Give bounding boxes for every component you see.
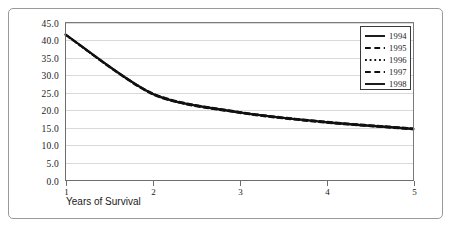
x-tick-label: 5 xyxy=(412,187,417,197)
x-tick-label: 4 xyxy=(325,187,330,197)
y-tick-label: 5.0 xyxy=(47,159,60,169)
x-tick-label: 1 xyxy=(64,187,69,197)
legend-label-1998: 1998 xyxy=(389,79,407,89)
y-tick-label: 30.0 xyxy=(42,71,59,81)
y-tick-label: 25.0 xyxy=(42,89,59,99)
x-axis-title: Years of Survival xyxy=(66,196,141,207)
x-tick-label: 2 xyxy=(151,187,156,197)
figure-container: 0.05.010.015.020.025.030.035.040.045.0 1… xyxy=(0,0,451,235)
legend-label-1995: 1995 xyxy=(389,43,407,53)
y-tick-label: 15.0 xyxy=(42,124,59,134)
legend-label-1997: 1997 xyxy=(389,67,407,77)
y-tick-label: 20.0 xyxy=(42,106,59,116)
survival-line-chart: 0.05.010.015.020.025.030.035.040.045.0 1… xyxy=(0,0,451,235)
y-axis-tick-labels: 0.05.010.015.020.025.030.035.040.045.0 xyxy=(42,19,59,187)
y-tick-label: 0.0 xyxy=(47,177,60,187)
y-tick-label: 10.0 xyxy=(42,141,59,151)
y-tick-label: 40.0 xyxy=(42,36,59,46)
legend-label-1994: 1994 xyxy=(389,31,407,41)
x-axis-tick-marks xyxy=(67,181,415,186)
y-tick-label: 35.0 xyxy=(42,54,59,64)
y-tick-label: 45.0 xyxy=(42,19,59,29)
legend-label-1996: 1996 xyxy=(389,55,407,65)
x-axis-tick-labels: 12345 xyxy=(64,187,417,197)
x-tick-label: 3 xyxy=(238,187,243,197)
